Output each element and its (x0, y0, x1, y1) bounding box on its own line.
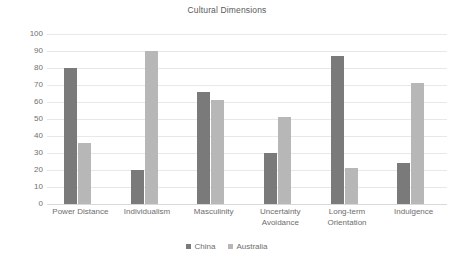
x-category-label: Long-term Orientation (314, 207, 381, 228)
bar-chart: Cultural Dimensions 10090807060504030201… (0, 0, 454, 265)
bars-layer (47, 34, 447, 204)
bar-australia-4 (345, 168, 358, 204)
legend-label: Australia (236, 242, 267, 251)
y-tick-label: 60 (0, 98, 43, 106)
y-tick-label: 100 (0, 30, 43, 38)
y-tick-label: 10 (0, 183, 43, 191)
y-tick-label: 30 (0, 149, 43, 157)
x-axis: Power DistanceIndividualismMasculinityUn… (47, 207, 447, 239)
y-tick-label: 0 (0, 200, 43, 208)
legend-swatch-icon (186, 244, 191, 249)
y-tick-label: 40 (0, 132, 43, 140)
bar-china-4 (331, 56, 344, 204)
x-category-label: Individualism (114, 207, 181, 218)
bar-china-2 (197, 92, 210, 204)
legend-entry-australia[interactable]: Australia (228, 242, 267, 251)
bar-australia-3 (278, 117, 291, 204)
y-tick-label: 70 (0, 81, 43, 89)
y-tick-label: 50 (0, 115, 43, 123)
x-category-label: Uncertainty Avoidance (247, 207, 314, 228)
y-tick-label: 90 (0, 47, 43, 55)
bar-china-5 (397, 163, 410, 204)
chart-title: Cultural Dimensions (0, 5, 454, 15)
bar-australia-5 (411, 83, 424, 204)
axis-baseline (47, 204, 447, 205)
x-category-label: Power Distance (47, 207, 114, 218)
legend-label: China (194, 242, 215, 251)
bar-australia-1 (145, 51, 158, 204)
y-tick-label: 80 (0, 64, 43, 72)
legend-entry-china[interactable]: China (186, 242, 215, 251)
x-category-label: Masculinity (180, 207, 247, 218)
x-category-label: Indulgence (380, 207, 447, 218)
bar-australia-2 (211, 100, 224, 204)
bar-australia-0 (78, 143, 91, 204)
bar-china-3 (264, 153, 277, 204)
chart-legend: ChinaAustralia (0, 242, 454, 251)
bar-china-0 (64, 68, 77, 204)
y-tick-label: 20 (0, 166, 43, 174)
bar-china-1 (131, 170, 144, 204)
legend-swatch-icon (228, 244, 233, 249)
y-axis: 1009080706050403020100 (0, 34, 43, 204)
